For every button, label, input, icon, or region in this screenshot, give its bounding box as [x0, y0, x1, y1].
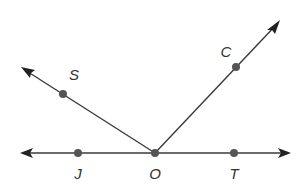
angle-diagram: S C J O T	[0, 0, 303, 196]
label-o: O	[149, 165, 161, 182]
point-s	[59, 90, 67, 98]
point-c	[232, 63, 240, 71]
label-t: T	[229, 165, 240, 182]
label-c: C	[221, 43, 232, 60]
point-o	[151, 149, 159, 157]
ray-os	[25, 70, 155, 153]
label-j: J	[73, 165, 82, 182]
arrow-s-icon	[21, 67, 35, 78]
point-j	[74, 149, 82, 157]
point-t	[230, 149, 238, 157]
ray-oc	[155, 24, 277, 153]
label-s: S	[69, 66, 79, 83]
